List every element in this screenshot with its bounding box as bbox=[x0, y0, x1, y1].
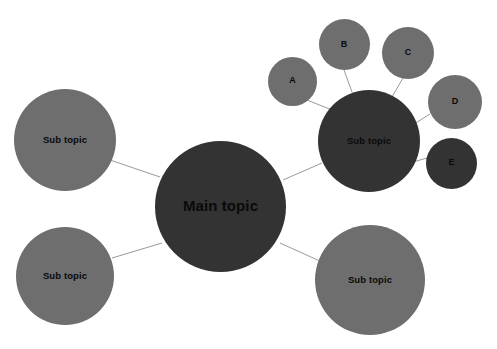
mind-map-canvas: Main topicSub topicSub topicSub topicSub… bbox=[0, 0, 497, 349]
node-leaf-a[interactable]: A bbox=[268, 57, 317, 106]
node-leaf-c[interactable]: C bbox=[382, 27, 434, 79]
node-sub-left[interactable]: Sub topic bbox=[14, 89, 116, 191]
link-sub-leaf-b bbox=[344, 70, 352, 92]
node-leaf-a-label: A bbox=[289, 76, 296, 86]
node-leaf-d[interactable]: D bbox=[428, 75, 482, 129]
node-main[interactable]: Main topic bbox=[155, 141, 286, 272]
link-main-sub-left bbox=[110, 160, 160, 177]
node-leaf-b-label: B bbox=[341, 40, 348, 50]
node-sub-bottom-right-label: Sub topic bbox=[348, 275, 392, 285]
node-leaf-e[interactable]: E bbox=[426, 138, 477, 189]
link-sub-leaf-c bbox=[392, 78, 403, 97]
node-sub-top-right[interactable]: Sub topic bbox=[318, 90, 420, 192]
node-main-label: Main topic bbox=[183, 198, 258, 215]
node-leaf-d-label: D bbox=[452, 97, 459, 107]
node-sub-bottom-right[interactable]: Sub topic bbox=[315, 225, 425, 335]
node-leaf-b[interactable]: B bbox=[319, 19, 370, 70]
node-leaf-c-label: C bbox=[405, 48, 412, 58]
node-sub-bottom-left[interactable]: Sub topic bbox=[16, 227, 114, 325]
node-leaf-e-label: E bbox=[448, 158, 454, 168]
link-main-sub-top-right bbox=[283, 163, 322, 180]
node-sub-bottom-left-label: Sub topic bbox=[43, 271, 87, 281]
node-sub-top-right-label: Sub topic bbox=[347, 136, 391, 146]
node-sub-left-label: Sub topic bbox=[43, 135, 87, 145]
link-main-sub-bottom-right bbox=[280, 243, 322, 262]
link-main-sub-bottom-left bbox=[112, 243, 162, 258]
